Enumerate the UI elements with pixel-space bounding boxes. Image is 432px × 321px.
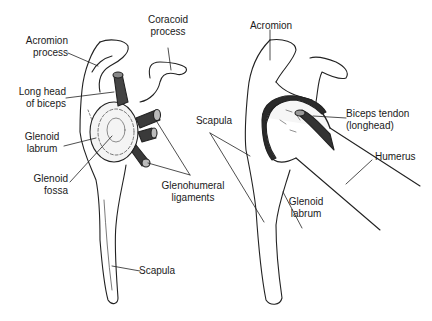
label-acromion: Acromion xyxy=(248,20,294,32)
label-acromion-process: Acromion process xyxy=(18,35,68,59)
label-coracoid-process: Coracoid process xyxy=(142,14,194,38)
left-biceps-tendon-drawing xyxy=(113,72,128,106)
right-scapula-drawing xyxy=(245,39,347,304)
label-humerus: Humerus xyxy=(375,151,416,163)
label-glenoid-fossa: Glenoid fossa xyxy=(26,173,68,197)
label-glenohumeral-ligaments: Glenohumeral ligaments xyxy=(160,180,226,204)
left-glenoid-drawing xyxy=(90,102,138,162)
label-scapula-right: Scapula xyxy=(194,115,234,127)
label-biceps-tendon: Biceps tendon (longhead) xyxy=(346,108,409,132)
label-glenoid-labrum-right: Glenoid labrum xyxy=(286,196,326,220)
label-scapula-left: Scapula xyxy=(139,265,175,277)
label-long-head-of-biceps: Long head of biceps xyxy=(10,86,66,110)
label-glenoid-labrum-left: Glenoid labrum xyxy=(22,131,62,155)
